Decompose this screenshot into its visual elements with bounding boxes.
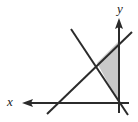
figure-container: x y (0, 0, 138, 122)
coordinate-diagram-svg: x y (0, 0, 138, 122)
x-axis-label: x (6, 94, 13, 109)
y-axis-label: y (115, 1, 123, 16)
